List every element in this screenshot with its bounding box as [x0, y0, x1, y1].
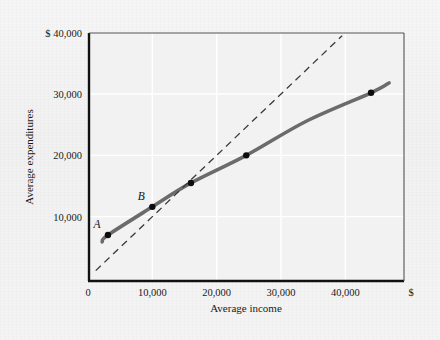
data-point-marker — [149, 204, 155, 210]
x-tick-labels: 010,00020,00030,00040,000 — [85, 287, 359, 298]
data-point-marker — [188, 180, 194, 186]
y-tick-label: 10,000 — [53, 212, 82, 223]
consumption-function-chart: AB 010,00020,00030,00040,000 10,00020,00… — [0, 0, 440, 340]
x-tick-label: 0 — [85, 287, 90, 298]
y-tick-label: 30,000 — [53, 89, 82, 100]
x-tick-label: 20,000 — [202, 287, 231, 298]
x-tick-label: 30,000 — [267, 287, 296, 298]
y-tick-label: $ 40,000 — [45, 28, 82, 39]
point-label-a: A — [92, 218, 101, 230]
data-point-marker — [243, 152, 249, 158]
x-tick-label: 40,000 — [331, 287, 360, 298]
y-tick-labels: 10,00020,00030,000$ 40,000 — [45, 28, 82, 223]
figure-container: AB 010,00020,00030,00040,000 10,00020,00… — [0, 0, 440, 340]
y-tick-label: 20,000 — [53, 150, 82, 161]
data-point-marker — [105, 232, 111, 238]
x-axis-dollar-sign: $ — [408, 287, 413, 298]
data-point-marker — [368, 90, 374, 96]
x-axis-title: Average income — [210, 302, 282, 314]
point-label-b: B — [138, 190, 145, 202]
x-tick-label: 10,000 — [138, 287, 167, 298]
y-axis-title: Average expenditures — [23, 109, 35, 204]
